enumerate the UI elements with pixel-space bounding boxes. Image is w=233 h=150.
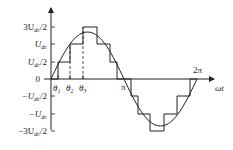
y-label-neg-udc: −Udc: [29, 109, 48, 120]
x-label-theta1: θ1: [53, 83, 60, 94]
x-ticks: [58, 75, 83, 79]
y-label-3udc-2: 3Udc/2: [23, 22, 47, 33]
y-label-zero: 0: [36, 74, 41, 84]
x-label-pi: π: [121, 82, 126, 92]
x-label-theta2: θ2: [66, 83, 73, 94]
y-label-neg-3udc-2: −3Udc/2: [18, 126, 47, 137]
staircase-sine-diagram: 3Udc/2 Udc Udc/2 0 −Udc/2 −Udc −3Udc/2 θ…: [0, 0, 233, 150]
y-label-udc: Udc: [35, 39, 48, 50]
x-label-theta3: θ3: [79, 83, 86, 94]
y-label-neg-udc-2: −Udc/2: [22, 91, 47, 102]
x-label-2pi: 2π: [193, 65, 203, 75]
x-axis-label-omega-t: ωt: [215, 83, 224, 93]
y-label-udc-2: Udc/2: [28, 57, 47, 68]
